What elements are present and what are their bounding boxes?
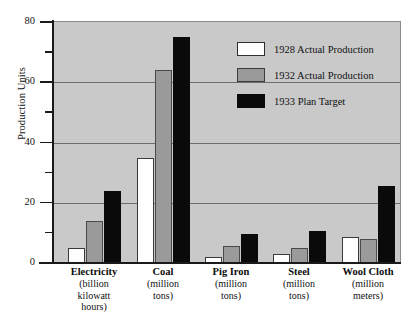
y-tick-minor <box>45 232 53 234</box>
category-unit: kilowatt <box>55 290 133 302</box>
category-name: Steel <box>260 266 338 278</box>
category-unit: (million <box>260 278 338 290</box>
x-axis-category-labels: Electricity(billionkilowatthours)Coal(mi… <box>53 266 400 328</box>
legend-item[interactable]: 1932 Actual Production <box>237 62 412 88</box>
bar <box>291 248 308 263</box>
y-tick-major <box>40 21 53 23</box>
bar <box>223 246 240 263</box>
y-tick-major <box>40 81 53 83</box>
bar <box>137 158 154 263</box>
bar <box>241 234 258 263</box>
category-name: Wool Cloth <box>329 266 407 278</box>
y-tick-major <box>40 262 53 264</box>
category-label: Electricity(billionkilowatthours) <box>55 266 133 313</box>
legend-label: 1933 Plan Target <box>274 96 345 107</box>
category-name: Coal <box>124 266 202 278</box>
category-unit: tons) <box>260 290 338 302</box>
category-unit: hours) <box>55 301 133 313</box>
bar <box>68 248 85 263</box>
category-unit: (million <box>124 278 202 290</box>
legend-swatch <box>237 42 265 56</box>
bar <box>104 191 121 263</box>
bar <box>86 221 103 263</box>
bar <box>360 239 377 263</box>
legend-item[interactable]: 1928 Actual Production <box>237 36 412 62</box>
y-tick-minor <box>45 172 53 174</box>
category-unit: (billion <box>55 278 133 290</box>
category-unit: meters) <box>329 290 407 302</box>
bar-chart: Production Units 020406080 1928 Actual P… <box>0 0 418 329</box>
y-tick-label: 20 <box>0 197 35 208</box>
y-tick-major <box>40 202 53 204</box>
category-unit: (million <box>192 278 270 290</box>
category-label: Pig Iron(milliontons) <box>192 266 270 301</box>
category-unit: (million <box>329 278 407 290</box>
y-tick-label: 40 <box>0 137 35 148</box>
y-tick-major <box>40 142 53 144</box>
category-name: Electricity <box>55 266 133 278</box>
bar <box>155 70 172 263</box>
category-label: Wool Cloth(millionmeters) <box>329 266 407 301</box>
y-tick-minor <box>45 111 53 113</box>
legend-swatch <box>237 68 265 82</box>
bar <box>342 237 359 263</box>
category-label: Steel(milliontons) <box>260 266 338 301</box>
y-axis-title: Production Units <box>16 39 27 169</box>
legend-label: 1928 Actual Production <box>274 44 374 55</box>
bar <box>309 231 326 263</box>
bar-group <box>68 22 121 263</box>
bar <box>378 186 395 263</box>
category-name: Pig Iron <box>192 266 270 278</box>
bar <box>173 37 190 263</box>
category-unit: tons) <box>124 290 202 302</box>
category-unit: tons) <box>192 290 270 302</box>
legend-label: 1932 Actual Production <box>274 70 374 81</box>
category-label: Coal(milliontons) <box>124 266 202 301</box>
legend-item[interactable]: 1933 Plan Target <box>237 88 412 114</box>
legend-swatch <box>237 94 265 108</box>
y-tick-label: 60 <box>0 76 35 87</box>
y-tick-minor <box>45 51 53 53</box>
x-axis-line <box>39 262 401 264</box>
bar-group <box>137 22 190 263</box>
chart-legend: 1928 Actual Production1932 Actual Produc… <box>237 36 412 114</box>
y-tick-label: 0 <box>0 257 35 268</box>
y-tick-label: 80 <box>0 16 35 27</box>
